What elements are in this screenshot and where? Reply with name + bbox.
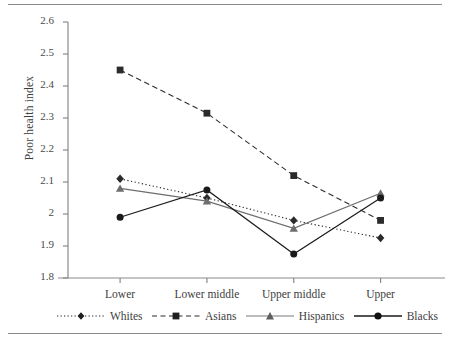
y-axis-tick-label: 2.4	[24, 78, 54, 90]
data-point-marker: Whites — Upper middle: 1.98	[290, 216, 298, 224]
x-axis-tick-label: Upper middle	[262, 288, 326, 300]
data-point-marker: Asians — Lower: 2.45	[117, 67, 124, 74]
y-axis-tick-label: 2.6	[24, 14, 54, 26]
data-point-marker: Asians — Upper middle: 2.12	[290, 172, 297, 179]
legend-label-blacks: Blacks	[407, 310, 438, 322]
y-axis-tick-label: 2.3	[24, 110, 54, 122]
legend-swatch-blacks	[353, 310, 403, 322]
legend-swatch-whites	[56, 310, 106, 322]
legend-swatch-asians	[151, 310, 201, 322]
data-point-marker: Asians — Lower middle: 2.315	[204, 110, 211, 117]
legend-item-hispanics[interactable]: Hispanics	[245, 310, 344, 322]
chart-legend: Whites Asians Hispanics Blacks	[56, 310, 438, 322]
y-axis-tick-label: 2	[24, 206, 54, 218]
data-point-marker: Asians — Upper: 1.98	[377, 217, 384, 224]
y-axis-tick-label: 2.5	[24, 46, 54, 58]
legend-label-asians: Asians	[205, 310, 236, 322]
legend-label-whites: Whites	[110, 310, 143, 322]
series-line-blacks	[120, 190, 380, 254]
series-lines-group: Whites — Lower: 2.11Whites — Lower middl…	[116, 67, 385, 258]
x-axis-tick-label: Lower middle	[174, 288, 239, 300]
data-point-marker: Hispanics — Lower: 2.08	[116, 184, 124, 191]
y-axis-tick-label: 1.9	[24, 238, 54, 250]
x-axis-tick-label: Lower	[105, 288, 135, 300]
data-point-marker: Blacks — Upper middle: 1.875	[290, 251, 297, 258]
series-asians: Asians — Lower: 2.45Asians — Lower middl…	[117, 67, 384, 224]
legend-label-hispanics: Hispanics	[299, 310, 344, 322]
data-point-marker: Blacks — Lower: 1.99	[117, 214, 124, 221]
legend-item-asians[interactable]: Asians	[151, 310, 236, 322]
data-point-marker: Blacks — Upper: 2.05	[377, 195, 384, 202]
y-axis-tick-label: 2.2	[24, 142, 54, 154]
y-axis-tick-label: 1.8	[24, 270, 54, 282]
legend-swatch-hispanics	[245, 310, 295, 322]
data-point-marker: Whites — Lower: 2.11	[116, 175, 124, 183]
x-axis-tick-label: Upper	[366, 288, 395, 300]
series-blacks: Blacks — Lower: 1.99Blacks — Lower middl…	[117, 187, 384, 258]
legend-item-whites[interactable]: Whites	[56, 310, 143, 322]
data-point-marker: Whites — Upper: 1.925	[377, 234, 385, 242]
series-line-asians	[120, 70, 380, 220]
data-point-marker: Blacks — Lower middle: 2.075	[203, 187, 210, 194]
series-hispanics: Hispanics — Lower: 2.08Hispanics — Lower…	[116, 184, 385, 231]
legend-item-blacks[interactable]: Blacks	[353, 310, 438, 322]
axes-group	[58, 22, 445, 283]
chart-figure: Poor health index Whites — Lower: 2.11Wh…	[0, 0, 450, 342]
y-axis-tick-label: 2.1	[24, 174, 54, 186]
